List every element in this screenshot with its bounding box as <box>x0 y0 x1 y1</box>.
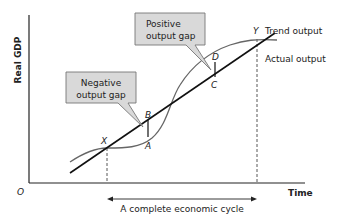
negative-callout-line2: output gap <box>76 90 126 100</box>
cycle-label: A complete economic cycle <box>120 204 244 214</box>
negative-gap-callout: Negative output gap <box>66 72 143 127</box>
diagram-canvas: Real GDP O Time X Y B A D C Trend output… <box>0 0 337 216</box>
actual-output-label: Actual output <box>265 54 326 64</box>
point-d-label: D <box>212 52 219 62</box>
y-axis-label: Real GDP <box>13 36 23 83</box>
economic-cycle-diagram: Real GDP O Time X Y B A D C Trend output… <box>0 0 337 216</box>
positive-callout-line1: Positive <box>146 19 181 29</box>
point-x-label: X <box>100 136 108 146</box>
economic-cycle-arrow <box>107 197 257 202</box>
point-c-label: C <box>211 80 218 90</box>
negative-callout-line1: Negative <box>81 78 122 88</box>
x-axis-label: Time <box>288 188 313 198</box>
point-a-label: A <box>144 141 151 151</box>
trend-output-label: Trend output <box>264 26 323 36</box>
positive-callout-line2: output gap <box>146 31 196 41</box>
point-y-label: Y <box>253 26 260 36</box>
point-b-label: B <box>145 110 151 120</box>
origin-label: O <box>17 187 24 197</box>
